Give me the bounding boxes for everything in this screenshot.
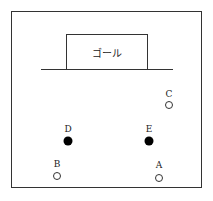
player-marker-b	[53, 172, 61, 180]
player-label-e: E	[146, 125, 153, 134]
player-label-a: A	[156, 161, 163, 170]
player-marker-e	[145, 137, 154, 146]
player-marker-d	[64, 137, 73, 146]
player-label-c: C	[166, 90, 173, 99]
player-label-d: D	[64, 125, 71, 134]
player-label-b: B	[54, 160, 61, 169]
player-marker-c	[165, 101, 173, 109]
goal-line	[41, 69, 173, 70]
goal-label: ゴール	[92, 45, 122, 60]
goal-box: ゴール	[66, 34, 148, 70]
player-marker-a	[155, 174, 163, 182]
